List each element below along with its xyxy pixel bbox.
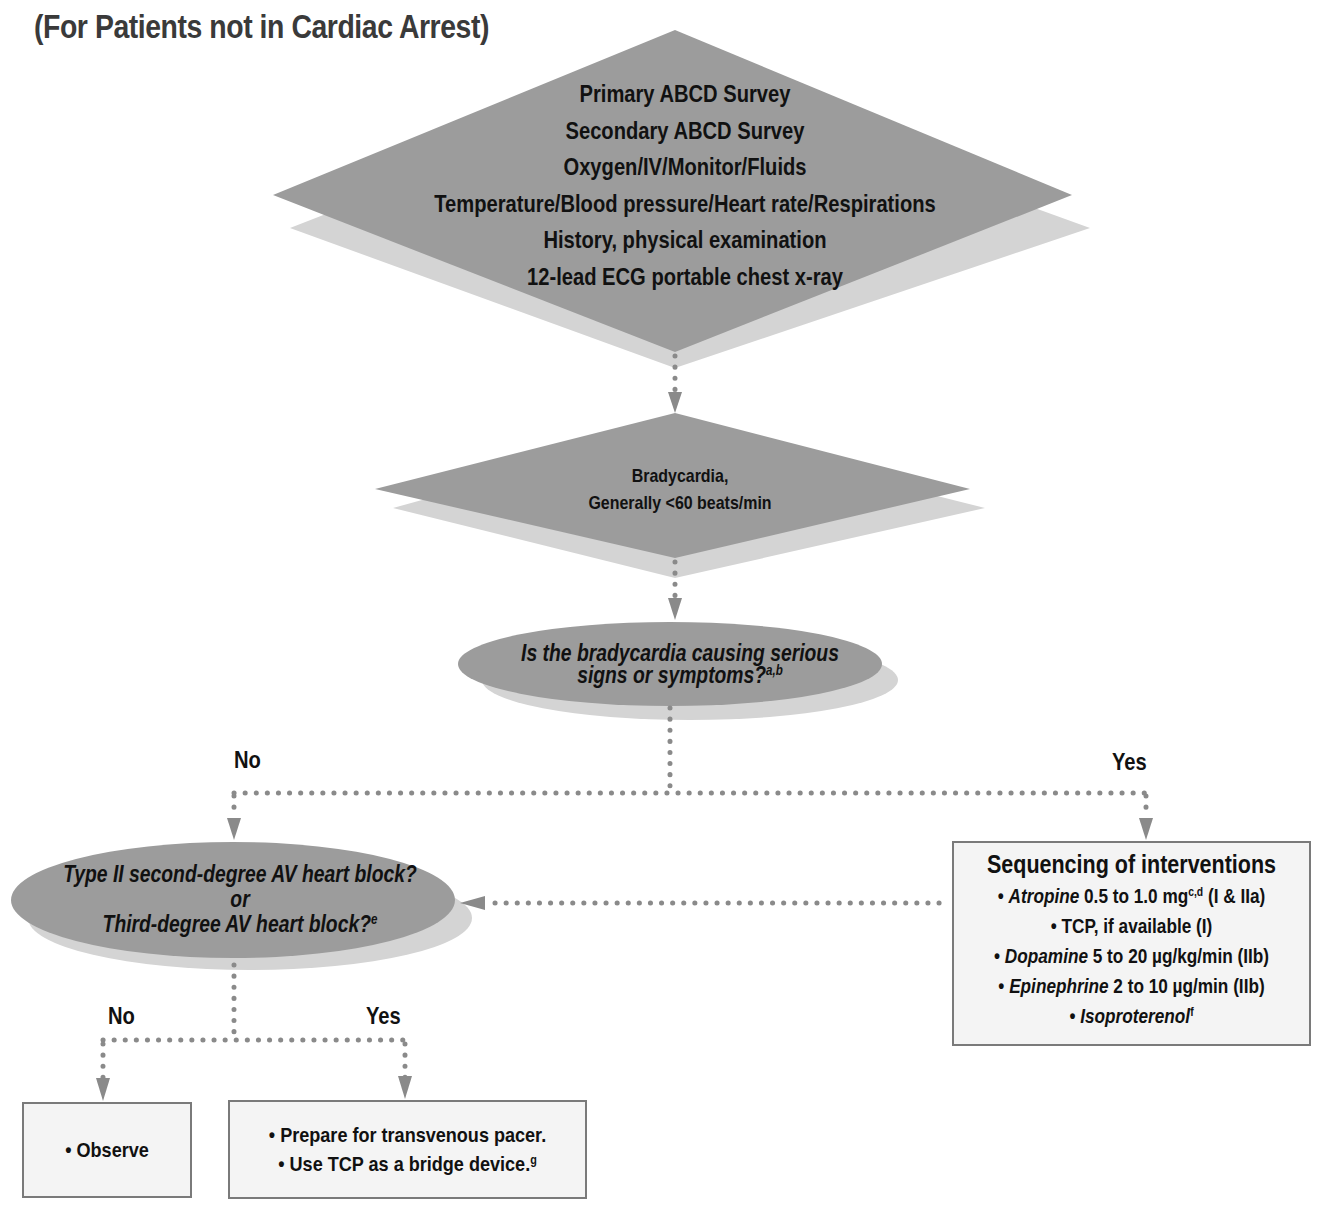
edge-label-no: No [234, 746, 261, 774]
pacer-item: • Use TCP as a bridge device.g [255, 1149, 560, 1178]
assessment-line: Oxygen/IV/Monitor/Fluids [336, 149, 1033, 186]
interventions-title: Sequencing of interventions [979, 847, 1284, 881]
observe-box: • Observe [22, 1102, 192, 1198]
question-line: Is the bradycardia causing serious [462, 642, 899, 664]
assessment-node: Primary ABCD Survey Secondary ABCD Surve… [336, 76, 1033, 295]
drug-name: Epinephrine [1009, 975, 1108, 997]
intervention-text: TCP, if available (I) [1062, 915, 1213, 937]
dose: 0.5 to 1.0 mg [1079, 885, 1188, 907]
bullet: • [65, 1138, 71, 1161]
edge-label-yes: Yes [366, 1002, 401, 1030]
serious-signs-node: Is the bradycardia causing serious signs… [462, 642, 899, 686]
observe-item: • Observe [36, 1135, 179, 1164]
question-line: signs or symptoms? [577, 662, 766, 688]
footnote-marker: a,b [766, 663, 783, 678]
dose: 5 to 20 µg/kg/min (IIb) [1088, 945, 1269, 967]
edge-label-yes: Yes [1112, 748, 1147, 776]
recommendation-class: (I & IIa) [1203, 885, 1265, 907]
connector-interventions-to-av-block [460, 896, 950, 910]
intervention-item: • Dopamine 5 to 20 µg/kg/min (IIb) [979, 941, 1284, 971]
bullet: • [998, 885, 1004, 907]
intervention-item: • Epinephrine 2 to 10 µg/min (IIb) [979, 971, 1284, 1001]
assessment-line: Primary ABCD Survey [336, 76, 1033, 113]
bradycardia-line: Generally <60 beats/min [420, 489, 941, 516]
connector-question-branches [227, 708, 1153, 840]
av-block-node: Type II second-degree AV heart block? or… [38, 862, 441, 937]
drug-name: Isoproterenol [1080, 1005, 1190, 1027]
footnote-marker: f [1190, 1005, 1193, 1019]
intervention-item: • Isoproterenolf [979, 1001, 1284, 1031]
assessment-line: 12-lead ECG portable chest x-ray [336, 259, 1033, 296]
bullet: • [998, 975, 1004, 997]
pacer-box: • Prepare for transvenous pacer. • Use T… [228, 1100, 587, 1199]
question-line: Type II second-degree AV heart block? [38, 862, 441, 887]
footnote-marker: e [371, 912, 377, 927]
bradycardia-line: Bradycardia, [420, 462, 941, 489]
edge-label-no: No [108, 1002, 135, 1030]
bullet: • [269, 1123, 275, 1146]
connector-av-block-branches [96, 965, 412, 1101]
assessment-line: Secondary ABCD Survey [336, 113, 1033, 150]
assessment-line: Temperature/Blood pressure/Heart rate/Re… [336, 186, 1033, 223]
dose: 2 to 10 µg/min (IIb) [1109, 975, 1265, 997]
question-line: Third-degree AV heart block? [103, 911, 371, 937]
intervention-item: • Atropine 0.5 to 1.0 mgc,d (I & IIa) [979, 881, 1284, 911]
bullet: • [994, 945, 1000, 967]
pacer-text: Use TCP as a bridge device. [290, 1152, 531, 1175]
drug-name: Dopamine [1005, 945, 1088, 967]
page-title: (For Patients not in Cardiac Arrest) [34, 8, 489, 46]
bullet: • [278, 1152, 284, 1175]
bullet: • [1051, 915, 1057, 937]
assessment-line: History, physical examination [336, 222, 1033, 259]
bullet: • [1069, 1005, 1075, 1027]
pacer-item: • Prepare for transvenous pacer. [255, 1120, 560, 1149]
footnote-marker: c,d [1188, 885, 1203, 899]
pacer-text: Prepare for transvenous pacer. [280, 1123, 546, 1146]
observe-text: Observe [77, 1138, 149, 1161]
question-or: or [38, 887, 441, 912]
intervention-item: • TCP, if available (I) [979, 911, 1284, 941]
interventions-box: Sequencing of interventions • Atropine 0… [952, 841, 1311, 1046]
drug-name: Atropine [1009, 885, 1080, 907]
footnote-marker: g [530, 1153, 537, 1167]
bradycardia-node: Bradycardia, Generally <60 beats/min [420, 462, 941, 516]
